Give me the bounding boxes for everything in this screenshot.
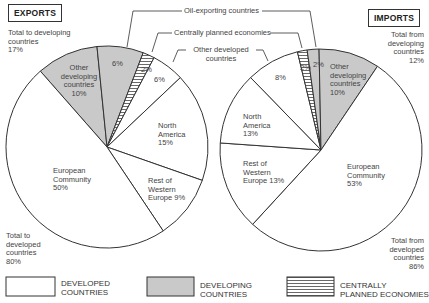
imports-pie bbox=[220, 49, 422, 251]
imports-label-other-developing: Other developing countries 10% bbox=[330, 63, 366, 97]
exports-label-rest-western-europe: Rest of Western Europe 9% bbox=[148, 177, 185, 203]
exports-title: EXPORTS bbox=[8, 4, 62, 22]
imports-label-other-developed: 8% bbox=[275, 74, 286, 83]
imports-label-oil-exporting: 2% bbox=[313, 61, 324, 70]
imports-title: IMPORTS bbox=[368, 9, 420, 27]
exports-label-other-developing: Other developing countries 10% bbox=[54, 64, 104, 98]
legend-label-centrally-planned: CENTRALLY PLANNED ECONOMIES bbox=[340, 281, 429, 299]
imports-label-centrally-planned: 2% bbox=[300, 64, 311, 73]
exports-label-oil-exporting: 6% bbox=[112, 60, 123, 69]
legend-swatch-developed bbox=[6, 277, 55, 296]
callout-other-developed: Other developed countries bbox=[188, 46, 254, 63]
legend-swatch-centrally-planned bbox=[287, 277, 334, 296]
legend-label-developing: DEVELOPING COUNTRIES bbox=[200, 281, 252, 299]
exports-total-developed: Total to developed countries 80% bbox=[6, 232, 41, 266]
imports-label-north-america: North America 13% bbox=[243, 113, 271, 139]
callout-oil-exporting: Oil-exporting countries bbox=[184, 7, 259, 16]
exports-label-centrally-planned: 2% bbox=[141, 66, 152, 75]
legend-swatch-developing bbox=[147, 277, 194, 296]
imports-label-european-community: European Community 53% bbox=[347, 163, 385, 189]
imports-total-developed: Total from developed countries 86% bbox=[389, 237, 424, 271]
exports-label-north-america: North America 15% bbox=[158, 122, 186, 148]
legend-label-developed: DEVELOPED COUNTRIES bbox=[61, 279, 110, 297]
imports-total-developing: Total from developing countries 12% bbox=[388, 31, 424, 65]
imports-label-rest-western-europe: Rest of Western Europe 13% bbox=[243, 160, 284, 186]
callout-centrally-planned: Centrally planned economies bbox=[174, 29, 271, 38]
exports-label-european-community: European Community 50% bbox=[53, 167, 91, 193]
exports-total-developing: Total to developing countries 17% bbox=[8, 29, 71, 55]
exports-label-other-developed: 6% bbox=[154, 76, 165, 85]
